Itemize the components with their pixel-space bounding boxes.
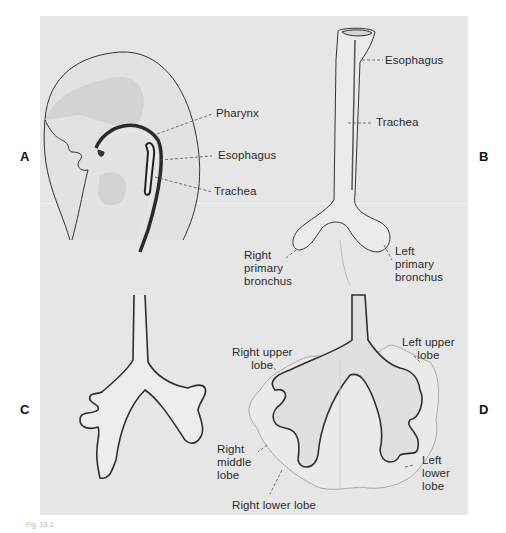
label-line: middle [217,456,251,469]
label-d-right-middle-lobe: Right middle lobe [217,443,251,482]
label-line: Right [244,249,292,262]
label-line: bronchus [395,271,443,284]
label-line: Left [395,245,443,258]
label-line: lobe [422,480,450,493]
panel-label-d: D [479,402,488,417]
panel-label-b: B [479,149,488,164]
label-a-esophagus: Esophagus [218,149,276,162]
label-d-right-upper-lobe: Right upper lobe [232,346,293,372]
lobar-lungs-drawing [249,295,439,490]
label-line: lobe [402,349,455,362]
label-d-left-lower-lobe: Left lower lobe [422,454,450,493]
label-d-right-lower-lobe: Right lower lobe [232,499,316,512]
label-line: Left upper [402,336,455,349]
label-line: Left [422,454,450,467]
label-a-pharynx: Pharynx [216,107,259,120]
bronchial-buds-drawing [80,295,206,478]
label-line: lower [422,467,450,480]
label-line: lobe [232,359,293,372]
label-line: Right upper [232,346,293,359]
label-b-trachea: Trachea [376,116,418,129]
trachea-drawing [293,28,390,285]
label-line: lobe [217,469,251,482]
label-b-left-primary-bronchus: Left primary bronchus [395,245,443,284]
label-line: primary [244,262,292,275]
label-a-trachea: Trachea [214,185,256,198]
label-b-esophagus: Esophagus [385,54,443,67]
figure-caption-fragment: Fig. 18-1 [26,521,54,528]
label-d-left-upper-lobe: Left upper lobe [402,336,455,362]
label-line: bronchus [244,275,292,288]
embryo-drawing [44,52,200,252]
label-line: primary [395,258,443,271]
panel-label-c: C [20,402,29,417]
label-line: Right [217,443,251,456]
label-b-right-primary-bronchus: Right primary bronchus [244,249,292,288]
panel-label-a: A [20,149,29,164]
